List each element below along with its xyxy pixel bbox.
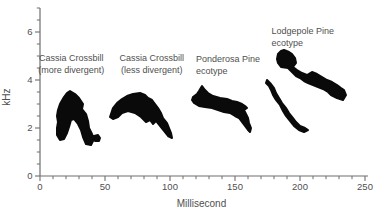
y-tick-label: 6 (27, 26, 32, 37)
call-label-cassia-crossbill-more-divergent-line2: (more divergent) (38, 65, 104, 75)
x-axis-title: Millisecond (177, 198, 226, 209)
call-label-ponderosa-pine-ecotype-line2: ecotype (196, 66, 228, 76)
y-tick-label: 2 (27, 122, 32, 133)
x-tick-label: 100 (162, 181, 178, 192)
call-label-cassia-crossbill-less-divergent-line2: (less divergent) (121, 65, 183, 75)
chart-canvas: 0501001502002500246MillisecondkHzCassia … (0, 0, 391, 220)
call-blob-ponderosa-pine-ecotype (192, 86, 251, 132)
call-label-lodgepole-pine-ecotype-line1: Lodgepole Pine (271, 26, 334, 36)
call-label-lodgepole-pine-ecotype-line2: ecotype (271, 38, 303, 48)
spectrogram-figure: 0501001502002500246MillisecondkHzCassia … (0, 0, 391, 220)
y-tick-label: 4 (27, 74, 32, 85)
call-label-cassia-crossbill-less-divergent-line1: Cassia Crossbill (120, 53, 185, 63)
call-label-ponderosa-pine-ecotype-line1: Ponderosa Pine (196, 54, 260, 64)
y-axis-title: kHz (1, 88, 12, 105)
x-tick-label: 150 (227, 181, 243, 192)
x-tick-label: 250 (357, 181, 373, 192)
call-blob-cassia-crossbill-more-divergent (57, 91, 100, 145)
call-blob-cassia-crossbill-less-divergent (110, 93, 172, 138)
call-blob-lodgepole-pine-ecotype (266, 50, 346, 132)
x-tick-label: 50 (100, 181, 111, 192)
x-tick-label: 0 (37, 181, 42, 192)
y-tick-label: 0 (27, 170, 32, 181)
call-label-cassia-crossbill-more-divergent-line1: Cassia Crossbill (39, 53, 104, 63)
x-tick-label: 200 (292, 181, 308, 192)
